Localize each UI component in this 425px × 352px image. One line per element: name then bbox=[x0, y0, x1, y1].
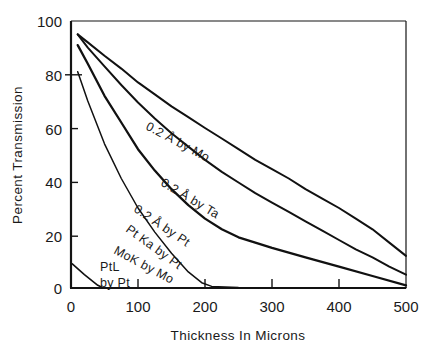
y-axis-title: Percent Transmission bbox=[10, 86, 25, 224]
curve-mo bbox=[78, 34, 406, 256]
x-tick-label-200: 200 bbox=[192, 298, 217, 315]
y-tick-label-80: 80 bbox=[45, 67, 62, 84]
transmission-line-chart: 100 80 60 40 20 0 0 100 200 300 400 500 … bbox=[0, 0, 425, 352]
curve-ptl-by-pt bbox=[72, 264, 103, 288]
x-tick-labels: 0 100 200 300 400 500 bbox=[67, 298, 419, 315]
curve-label-ptl-line2: by Pt bbox=[100, 276, 130, 290]
y-tick-label-20: 20 bbox=[45, 228, 62, 245]
x-axis-title: Thickness In Microns bbox=[171, 328, 306, 343]
y-tick-label-0: 0 bbox=[54, 280, 62, 297]
x-tick-label-500: 500 bbox=[393, 298, 418, 315]
y-tick-label-40: 40 bbox=[45, 174, 62, 191]
y-axis-ticks bbox=[65, 75, 82, 236]
x-tick-label-400: 400 bbox=[326, 298, 351, 315]
y-tick-label-60: 60 bbox=[45, 121, 62, 138]
x-tick-label-300: 300 bbox=[259, 298, 284, 315]
chart-figure: 100 80 60 40 20 0 0 100 200 300 400 500 … bbox=[0, 0, 425, 352]
x-tick-label-100: 100 bbox=[125, 298, 150, 315]
x-tick-label-0: 0 bbox=[67, 298, 75, 315]
y-tick-label-100: 100 bbox=[37, 13, 62, 30]
curve-label-ta: 0.2 Å by Ta bbox=[158, 175, 222, 222]
curve-label-ptl-line1: PtL bbox=[100, 260, 120, 274]
y-tick-labels: 100 80 60 40 20 0 bbox=[37, 13, 62, 297]
